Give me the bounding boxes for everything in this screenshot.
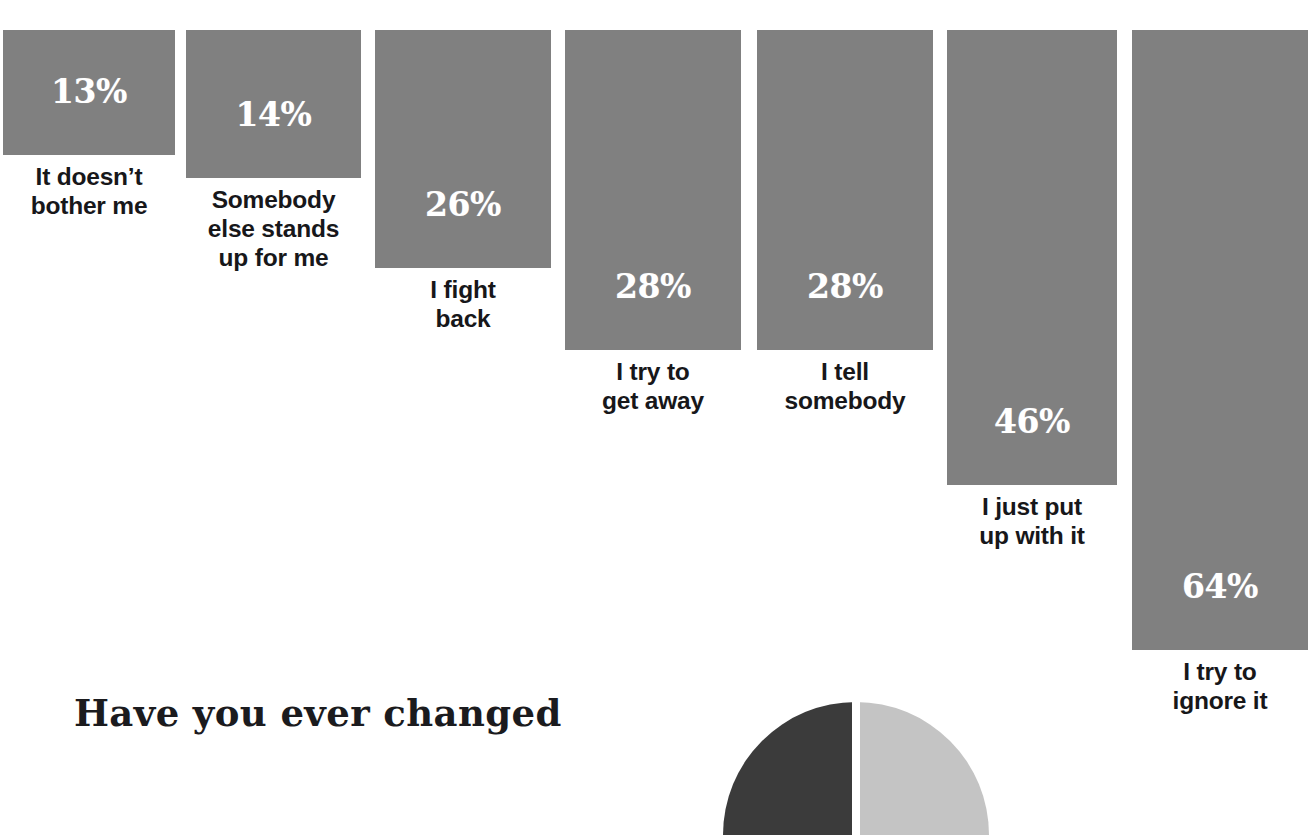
bar-group: 64% I try to ignore it (1132, 30, 1308, 650)
bar-label-line: I try to (557, 358, 749, 387)
bar-label-line: I tell (749, 358, 941, 387)
bar-category-label: Somebody else stands up for me (178, 186, 369, 273)
bar-rect (1132, 30, 1308, 650)
bar-group: 28% I tell somebody (757, 30, 933, 350)
bar-label-line: up for me (178, 244, 369, 273)
bar-value-label: 13% (3, 75, 175, 108)
pie-divider (852, 702, 860, 838)
bar-value-label: 46% (947, 405, 1117, 438)
bar-value-label: 26% (375, 188, 551, 221)
bar-rect (375, 30, 551, 268)
bar-label-line: It doesn’t (0, 163, 183, 192)
bar-category-label: I try to get away (557, 358, 749, 416)
bar-category-label: It doesn’t bother me (0, 163, 183, 221)
bar-category-label: I fight back (367, 276, 559, 334)
bar-value-label: 64% (1132, 570, 1308, 603)
pie-chart (723, 702, 989, 839)
bar-label-line: up with it (939, 522, 1125, 551)
bar-category-label: I tell somebody (749, 358, 941, 416)
bar-label-line: get away (557, 387, 749, 416)
bar-group: 46% I just put up with it (947, 30, 1117, 485)
bar-label-line: ignore it (1124, 687, 1313, 716)
bar-group: 14% Somebody else stands up for me (186, 30, 361, 178)
bar-group: 26% I fight back (375, 30, 551, 268)
pie-slice-dark (723, 702, 856, 835)
bar-group: 13% It doesn’t bother me (3, 30, 175, 155)
bar-label-line: back (367, 305, 559, 334)
bar-value-label: 28% (565, 270, 741, 303)
bar-label-line: I try to (1124, 658, 1313, 687)
bar-label-line: else stands (178, 215, 369, 244)
bar-group: 28% I try to get away (565, 30, 741, 350)
bar-value-label: 14% (186, 98, 361, 131)
bar-label-line: somebody (749, 387, 941, 416)
bar-category-label: I try to ignore it (1124, 658, 1313, 716)
bar-label-line: I just put (939, 493, 1125, 522)
bar-label-line: bother me (0, 192, 183, 221)
bar-label-line: I fight (367, 276, 559, 305)
bar-value-label: 28% (757, 270, 933, 303)
pie-slice-light (856, 702, 989, 835)
headline-text: Have you ever changed (74, 693, 562, 734)
bar-category-label: I just put up with it (939, 493, 1125, 551)
bar-label-line: Somebody (178, 186, 369, 215)
